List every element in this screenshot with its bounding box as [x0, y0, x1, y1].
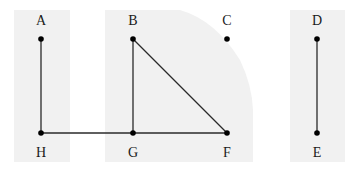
point-E: [314, 130, 320, 136]
label-B: B: [128, 13, 137, 28]
panel-left: [14, 10, 70, 162]
point-H: [38, 130, 44, 136]
geometry-diagram: A B C D H G F E: [0, 0, 357, 170]
point-G: [130, 130, 136, 136]
diagram-svg: A B C D H G F E: [0, 0, 357, 170]
point-B: [130, 36, 136, 42]
label-F: F: [223, 145, 231, 160]
point-F: [224, 130, 230, 136]
label-C: C: [222, 13, 231, 28]
point-D: [314, 36, 320, 42]
label-E: E: [313, 145, 322, 160]
label-H: H: [36, 145, 46, 160]
point-C: [224, 36, 230, 42]
point-A: [38, 36, 44, 42]
panel-middle: [105, 10, 253, 162]
label-G: G: [128, 145, 138, 160]
label-A: A: [36, 13, 47, 28]
label-D: D: [312, 13, 322, 28]
